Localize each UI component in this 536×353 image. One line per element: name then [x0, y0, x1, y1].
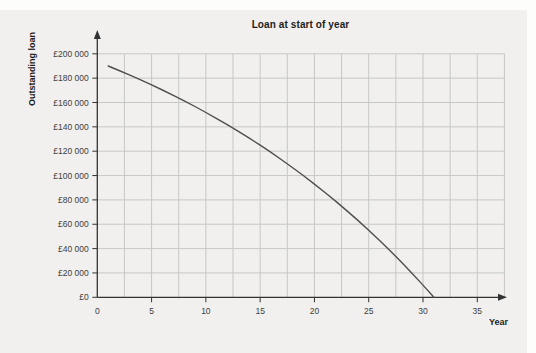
- loan-curve: [108, 66, 434, 297]
- x-tick-label: 35: [473, 306, 483, 316]
- page: Loan at start of year Outstanding loan Y…: [0, 0, 536, 353]
- x-tick-label: 10: [201, 306, 211, 316]
- y-tick-label: £100 000: [53, 171, 89, 181]
- y-tick-label: £20 000: [58, 268, 89, 278]
- x-tick-label: 0: [95, 306, 100, 316]
- x-tick-label: 5: [149, 306, 154, 316]
- y-tick-label: £200 000: [53, 49, 89, 59]
- y-tick-label: £0: [79, 292, 89, 302]
- y-tick-label: £80 000: [58, 195, 89, 205]
- y-tick-label: £160 000: [53, 98, 89, 108]
- y-tick-label: £120 000: [53, 146, 89, 156]
- y-tick-label: £140 000: [53, 122, 89, 132]
- plot-area: £0£20 000£40 000£60 000£80 000£100 000£1…: [0, 0, 536, 353]
- y-tick-label: £180 000: [53, 73, 89, 83]
- y-tick-label: £40 000: [58, 244, 89, 254]
- x-axis-arrowhead: [498, 294, 507, 301]
- y-tick-label: £60 000: [58, 219, 89, 229]
- y-axis-arrowhead: [94, 30, 101, 39]
- x-tick-label: 15: [255, 306, 265, 316]
- x-tick-label: 20: [310, 306, 320, 316]
- x-tick-label: 30: [418, 306, 428, 316]
- x-tick-label: 25: [364, 306, 374, 316]
